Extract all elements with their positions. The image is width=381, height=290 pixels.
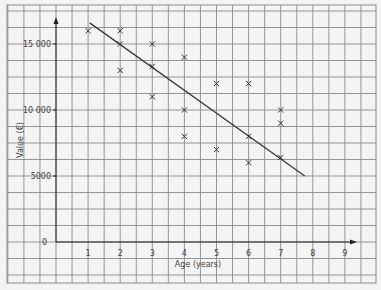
- chart-background: [0, 0, 381, 290]
- y-tick-label: 10 000: [23, 106, 51, 115]
- y-tick-label: 0: [42, 238, 47, 247]
- x-tick-label: 9: [342, 249, 347, 258]
- x-tick-label: 4: [182, 249, 187, 258]
- x-tick-label: 2: [118, 249, 123, 258]
- x-tick-label: 8: [310, 249, 315, 258]
- y-tick-label: 15 000: [23, 40, 51, 49]
- x-tick-label: 6: [246, 249, 251, 258]
- x-tick-label: 7: [278, 249, 283, 258]
- y-tick-label: 5000: [31, 172, 51, 181]
- x-tick-label: 1: [86, 249, 91, 258]
- x-tick-label: 3: [150, 249, 155, 258]
- x-tick-label: 5: [214, 249, 219, 258]
- x-axis-label: Age (years): [175, 260, 221, 269]
- y-axis-label: Value (€): [16, 122, 25, 158]
- scatter-chart: 1234567890500010 00015 000 Age (years) V…: [0, 0, 381, 290]
